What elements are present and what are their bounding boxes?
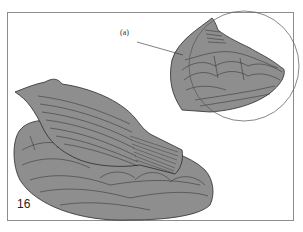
illustration — [0, 0, 303, 232]
callout-leader-line — [137, 42, 183, 55]
figure-number: 16 — [17, 197, 30, 211]
callout-label: (a) — [120, 28, 129, 37]
inset-detail — [170, 11, 299, 121]
